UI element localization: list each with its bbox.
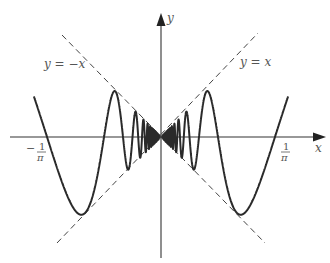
function-graph: y x y = −x y = x − 1 π 1 π (0, 0, 330, 263)
y-axis-label: y (166, 11, 174, 25)
tick-pos-one-over-pi: 1 π (280, 141, 290, 163)
x-axis-label: x (315, 141, 322, 155)
y-axis-arrow-icon (157, 13, 166, 26)
label-y-equals-x: y = x (239, 55, 271, 69)
tick-numerator: 1 (39, 141, 45, 152)
tick-sign: − (26, 142, 35, 155)
tick-denominator: π (280, 152, 288, 163)
tick-denominator: π (36, 152, 44, 163)
tick-neg-one-over-pi: − 1 π (26, 141, 46, 163)
label-y-equals-neg-x: y = −x (43, 57, 86, 71)
tick-numerator: 1 (283, 141, 289, 152)
